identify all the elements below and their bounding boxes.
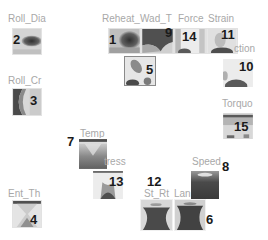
component-label-strain: Strain: [208, 13, 234, 24]
component-label-force: Force: [178, 13, 204, 24]
component-label-ction: ction: [234, 43, 255, 54]
heatmap-7: [79, 139, 107, 169]
component-number-2: 2: [13, 33, 20, 46]
component-label-reheat: Reheat_: [102, 13, 140, 24]
component-plane-12[interactable]: [140, 199, 173, 231]
component-number-8: 8: [222, 160, 229, 173]
component-label-torquo: Torquo: [222, 98, 253, 109]
component-label-st-rt: St_Rt: [144, 188, 169, 199]
component-number-13: 13: [109, 175, 123, 188]
component-plane-6[interactable]: [174, 199, 206, 231]
component-plane-8[interactable]: [190, 170, 220, 200]
component-number-1: 1: [109, 33, 116, 46]
component-number-7: 7: [67, 135, 74, 148]
component-label-roll-cr: Roll_Cr: [8, 75, 41, 86]
component-number-10: 10: [239, 60, 253, 73]
component-label-tress: tress: [104, 156, 126, 167]
component-label-roll-dia: Roll_Dia: [8, 13, 46, 24]
component-label-lan: Lan: [174, 188, 191, 199]
component-number-3: 3: [30, 94, 37, 107]
component-label-ent-th: Ent_Th: [8, 188, 40, 199]
component-number-5: 5: [146, 63, 153, 76]
component-label-wad-t: Wad_T: [140, 13, 172, 24]
component-number-14: 14: [182, 30, 196, 43]
component-plane-4[interactable]: [12, 200, 42, 228]
component-number-15: 15: [234, 120, 248, 133]
component-number-9: 9: [165, 26, 172, 39]
component-number-4: 4: [30, 213, 37, 226]
heatmap-12: [141, 200, 172, 230]
component-number-11: 11: [221, 28, 235, 41]
component-plane-3[interactable]: [12, 88, 42, 116]
component-label-speed: Speed: [192, 156, 221, 167]
component-number-12: 12: [147, 175, 161, 188]
heatmap-6: [175, 200, 205, 230]
component-number-6: 6: [206, 213, 213, 226]
heatmap-8: [191, 171, 219, 199]
